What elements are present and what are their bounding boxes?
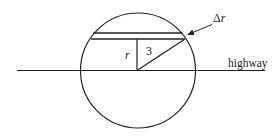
label-radius-3: 3 [146,44,152,58]
radius-segment [137,39,185,71]
label-highway: highway [228,57,268,70]
label-delta-r: Δr [213,11,226,25]
delta-r-arrow [188,25,212,35]
label-delta-var: r [221,11,226,25]
diagram-canvas: r 3 Δr highway [0,0,275,137]
label-r: r [125,48,130,62]
